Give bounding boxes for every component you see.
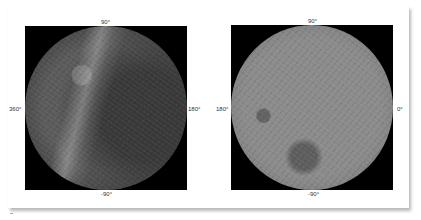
label-left: 360° (9, 106, 21, 112)
label-left: 180° (216, 106, 228, 112)
hemisphere-map-right (231, 25, 393, 190)
surface-texture (231, 25, 393, 190)
label-right: 0° (397, 106, 403, 112)
surface-texture (25, 26, 187, 190)
label-bottom: -90° (101, 191, 112, 197)
footer-mark (10, 213, 13, 214)
label-bottom: -90° (308, 191, 319, 197)
label-right: 180° (188, 106, 200, 112)
label-top: 90° (101, 19, 110, 25)
hemisphere-map-left (25, 26, 187, 190)
label-top: 90° (308, 18, 317, 24)
